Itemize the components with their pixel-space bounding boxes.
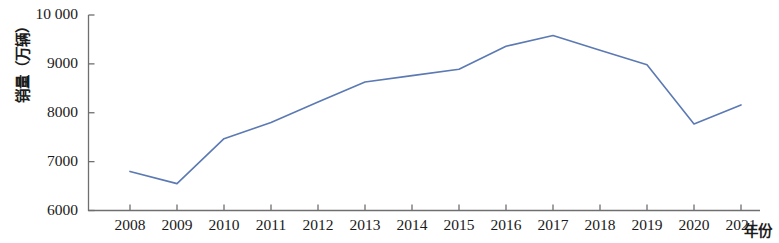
plot-area	[0, 0, 779, 243]
line-chart: 销量（万辆） 年份 10 000 9000 8000 7000 6000 200…	[0, 0, 779, 243]
y-axis-ticks	[89, 15, 95, 211]
axis-lines	[88, 15, 760, 211]
series-line-sales	[130, 36, 741, 184]
x-axis-ticks	[130, 205, 741, 211]
